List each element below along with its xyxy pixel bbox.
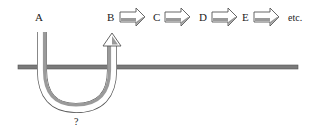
label-etc: etc. bbox=[288, 13, 302, 23]
chain-arrow-c-d bbox=[165, 8, 190, 26]
label-a: A bbox=[35, 12, 43, 23]
chain-arrow-d-e bbox=[212, 8, 237, 26]
horizontal-line bbox=[18, 65, 298, 69]
label-c: C bbox=[153, 12, 160, 23]
diagram-graphics bbox=[0, 0, 326, 132]
label-d: D bbox=[199, 12, 207, 23]
chain-arrow-b-c bbox=[120, 8, 145, 26]
u-turn-arrow bbox=[42, 32, 121, 108]
label-b: B bbox=[107, 12, 114, 23]
diagram-canvas: A B C D E etc. ? bbox=[0, 0, 326, 132]
label-question: ? bbox=[74, 117, 78, 127]
chain-arrow-e-etc bbox=[254, 8, 279, 26]
label-e: E bbox=[242, 12, 249, 23]
